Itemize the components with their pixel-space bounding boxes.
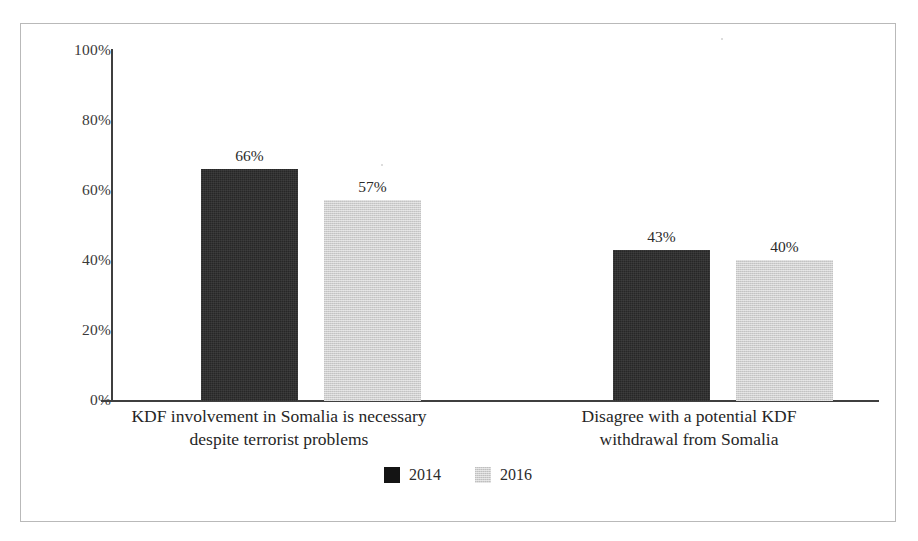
x-category-label-0-line1: KDF involvement in Somalia is necessary <box>79 405 479 428</box>
bar-value-2014-group0: 66% <box>185 148 314 164</box>
bar-value-2016-group1: 40% <box>720 239 849 255</box>
y-axis-tick-labels: 100% 80% 60% 40% 20% 0% <box>33 49 111 401</box>
legend-label-2014: 2014 <box>409 467 441 483</box>
x-category-label-1-line1: Disagree with a potential KDF <box>489 405 889 428</box>
legend-swatch-2014-icon <box>384 467 400 483</box>
x-category-label-0-line2: despite terrorist problems <box>79 428 479 451</box>
legend-item-2014[interactable]: 2014 <box>384 467 441 483</box>
y-tick-40: 40% <box>33 252 111 268</box>
x-category-label-1: Disagree with a potential KDF withdrawal… <box>489 405 889 451</box>
plot-area: 66% 57% 43% 40% <box>113 49 879 401</box>
bar-rect-2016-group1 <box>736 260 833 401</box>
bar-rect-2014-group1 <box>613 250 710 401</box>
bar-value-2014-group1: 43% <box>597 229 726 245</box>
bar-rect-2016-group0 <box>324 200 421 401</box>
scan-speck <box>721 38 723 40</box>
figure-frame: 100% 80% 60% 40% 20% 0% 66% 57% <box>20 23 896 522</box>
x-category-label-0: KDF involvement in Somalia is necessary … <box>79 405 479 451</box>
y-tick-20: 20% <box>33 322 111 338</box>
chart-legend: 2014 2016 <box>21 467 895 483</box>
bar-group-kdf-involvement: 66% 57% <box>131 49 461 401</box>
y-tick-100: 100% <box>33 42 111 58</box>
legend-swatch-2016-icon <box>475 467 491 483</box>
legend-label-2016: 2016 <box>500 467 532 483</box>
legend-item-2016[interactable]: 2016 <box>475 467 532 483</box>
scan-speck <box>381 164 383 166</box>
bar-chart: 100% 80% 60% 40% 20% 0% 66% 57% <box>21 24 895 521</box>
y-tick-60: 60% <box>33 182 111 198</box>
x-category-label-1-line2: withdrawal from Somalia <box>489 428 889 451</box>
bar-value-2016-group0: 57% <box>308 179 437 195</box>
y-tick-80: 80% <box>33 112 111 128</box>
bar-group-kdf-withdrawal: 43% 40% <box>543 49 873 401</box>
bar-rect-2014-group0 <box>201 169 298 401</box>
